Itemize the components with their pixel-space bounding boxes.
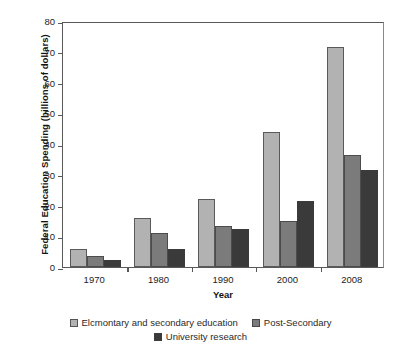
bar[interactable] xyxy=(198,199,215,267)
bar-groups xyxy=(63,23,383,267)
bar[interactable] xyxy=(151,233,168,267)
bar[interactable] xyxy=(168,249,185,267)
y-tick-label: 10 xyxy=(35,231,55,242)
x-tick-label: 2008 xyxy=(322,274,382,285)
bar[interactable] xyxy=(70,249,87,267)
x-tick-label: 1990 xyxy=(193,274,253,285)
legend-label-elementary: Elcmontary and secondary education xyxy=(82,316,238,330)
y-tick-label: 0 xyxy=(35,262,55,273)
x-tick-label: 1980 xyxy=(129,274,189,285)
legend-item-university-research: University research xyxy=(154,330,247,344)
y-tick-mark xyxy=(58,269,63,270)
bar[interactable] xyxy=(134,218,151,267)
legend-item-elementary: Elcmontary and secondary education xyxy=(70,316,238,330)
bar[interactable] xyxy=(104,260,121,267)
bar[interactable] xyxy=(344,155,361,267)
x-tick-mark xyxy=(192,267,193,272)
y-tick-label: 70 xyxy=(35,47,55,58)
x-tick-mark xyxy=(127,267,128,272)
bar[interactable] xyxy=(361,170,378,267)
bar[interactable] xyxy=(280,221,297,267)
y-tick-label: 50 xyxy=(35,108,55,119)
bar-group xyxy=(192,23,256,267)
chart-legend: Elcmontary and secondary education Post-… xyxy=(0,316,401,344)
bar-group xyxy=(127,23,191,267)
bar[interactable] xyxy=(297,201,314,267)
bar-group-bars xyxy=(127,23,191,267)
x-axis-title: Year xyxy=(62,289,384,300)
x-tick-mark xyxy=(256,267,257,272)
bar-group xyxy=(256,23,320,267)
legend-row-primary: Elcmontary and secondary education Post-… xyxy=(0,316,401,330)
y-tick-label: 40 xyxy=(35,139,55,150)
plot-area: 01020304050607080 xyxy=(62,22,384,268)
legend-swatch-icon-elementary xyxy=(70,319,78,327)
y-tick-label: 20 xyxy=(35,201,55,212)
x-tick-label: 1970 xyxy=(64,274,124,285)
bar[interactable] xyxy=(87,256,104,267)
bar-chart-figure: Federal Education Spending (billions of … xyxy=(0,0,401,355)
y-tick-label: 80 xyxy=(35,16,55,27)
bar-group-bars xyxy=(192,23,256,267)
bar-group-bars xyxy=(256,23,320,267)
legend-label-post-secondary: Post-Secondary xyxy=(264,316,332,330)
bar[interactable] xyxy=(215,226,232,268)
bar-group xyxy=(321,23,385,267)
y-tick-label: 30 xyxy=(35,170,55,181)
legend-label-university-research: University research xyxy=(166,330,247,344)
bar[interactable] xyxy=(232,229,249,267)
bar[interactable] xyxy=(263,132,280,267)
x-tick-mark xyxy=(321,267,322,272)
bar[interactable] xyxy=(327,47,344,267)
y-tick-label: 60 xyxy=(35,78,55,89)
legend-row-secondary: University research xyxy=(0,330,401,344)
bar-group-bars xyxy=(321,23,385,267)
bar-group-bars xyxy=(63,23,127,267)
bar-group xyxy=(63,23,127,267)
legend-item-post-secondary: Post-Secondary xyxy=(252,316,332,330)
legend-swatch-icon-post-secondary xyxy=(252,319,260,327)
legend-swatch-icon-university-research xyxy=(154,333,162,341)
x-tick-label: 2000 xyxy=(257,274,317,285)
